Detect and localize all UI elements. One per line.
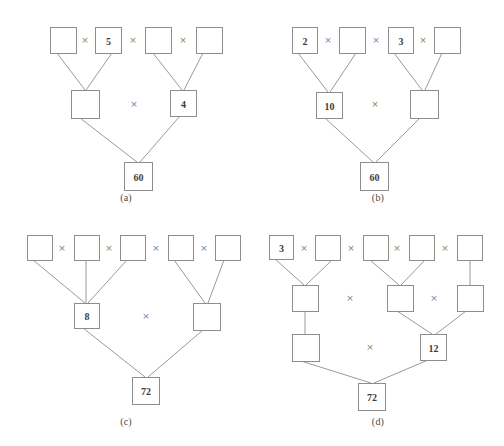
factor-cell-d-mid-1[interactable] [293, 286, 319, 312]
connector-d-edge-l2-root [374, 360, 428, 383]
factor-cell-border-d-low-1[interactable] [293, 335, 320, 362]
connector-b-edge-t1-m1 [298, 53, 328, 92]
multiply-operator-a-op-top-1: × [81, 35, 89, 45]
factor-cell-d-top-1[interactable]: 3 [270, 236, 294, 260]
factor-cell-border-a-top-3[interactable] [146, 28, 172, 54]
multiply-operator-d-op-mid-1: × [346, 293, 354, 303]
factor-cell-d-mid-3[interactable] [458, 286, 484, 312]
connector-b-edge-m2-root [376, 118, 420, 162]
factor-cell-border-d-mid-1[interactable] [293, 286, 319, 312]
factor-cell-d-mid-2[interactable] [388, 286, 414, 312]
multiply-operator-b-op-top-3: × [419, 35, 427, 45]
factor-cell-d-low-1[interactable] [293, 335, 320, 362]
factor-cell-value-d-low-2: 12 [429, 343, 439, 354]
factor-cell-value-c-mid-1: 8 [85, 311, 90, 322]
factor-cell-b-mid-2[interactable] [411, 91, 439, 119]
factor-cell-c-root[interactable]: 72 [133, 378, 160, 405]
factor-cell-border-a-top-1[interactable] [51, 28, 77, 54]
factor-cell-d-top-4[interactable] [410, 236, 435, 261]
factor-cell-value-b-mid-1: 10 [325, 101, 335, 112]
factor-cell-b-top-2[interactable] [340, 28, 366, 54]
connector-a-edge-t1-m1 [57, 53, 85, 90]
factor-cell-d-top-5[interactable] [458, 236, 483, 261]
factor-cell-border-a-mid-1[interactable] [72, 91, 100, 119]
factor-cell-border-d-top-3[interactable] [364, 236, 389, 261]
factor-cell-a-top-2[interactable]: 5 [96, 28, 122, 54]
factor-cell-border-c-top-3[interactable] [121, 236, 146, 261]
factor-cell-border-b-top-2[interactable] [340, 28, 366, 54]
factor-tree-graph-a: ××××5460 [0, 0, 252, 223]
factor-cell-c-top-3[interactable] [121, 236, 146, 261]
multiply-operator-b-op-top-1: × [324, 35, 332, 45]
factor-cell-c-mid-1[interactable]: 8 [75, 304, 100, 329]
connector-b-edge-t3-m2 [394, 53, 422, 90]
connector-b-edge-m1-root [325, 118, 373, 162]
connector-a-edge-t3-m2 [153, 53, 182, 90]
factor-cell-border-d-mid-2[interactable] [388, 286, 414, 312]
factor-cell-border-c-top-1[interactable] [28, 236, 53, 261]
panel-caption-b: (b) [252, 192, 504, 203]
multiply-operator-d-op-top-1: × [300, 243, 308, 253]
factor-cell-border-a-top-4[interactable] [197, 28, 223, 54]
connector-d-edge-l1-root [301, 361, 371, 383]
factor-cell-value-b-top-1: 2 [303, 36, 308, 47]
multiply-operator-c-op-top-3: × [152, 243, 160, 253]
factor-cell-value-d-root: 72 [367, 392, 377, 403]
factor-cell-c-top-5[interactable] [216, 236, 241, 261]
factor-cell-c-mid-2[interactable] [194, 304, 221, 331]
factor-tree-panel-a: ××××5460(a) [0, 0, 252, 223]
connector-c-edge-m2-root [148, 330, 203, 377]
factor-cell-border-b-mid-2[interactable] [411, 91, 439, 119]
connector-c-edge-t3-m1 [88, 260, 127, 303]
factor-cell-a-root[interactable]: 60 [125, 163, 153, 191]
factor-cell-c-top-1[interactable] [28, 236, 53, 261]
factor-cell-border-b-top-4[interactable] [435, 28, 461, 54]
multiply-operator-c-op-top-2: × [105, 243, 113, 253]
factor-cell-value-b-top-3: 3 [399, 36, 404, 47]
factor-cell-d-top-2[interactable] [316, 236, 341, 261]
factor-tree-graph-d: ×××××××31272 [252, 223, 504, 446]
connector-a-edge-m2-root [140, 116, 180, 162]
factor-cell-a-mid-2[interactable]: 4 [171, 91, 197, 117]
factor-tree-panel-c: ×××××872(c) [0, 223, 252, 446]
factor-cell-d-top-3[interactable] [364, 236, 389, 261]
factor-cell-border-d-top-2[interactable] [316, 236, 341, 261]
multiply-operator-d-op-top-2: × [347, 243, 355, 253]
factor-cell-c-top-4[interactable] [169, 236, 194, 261]
factor-cell-b-root[interactable]: 60 [361, 163, 389, 191]
factor-cell-b-top-3[interactable]: 3 [389, 28, 414, 54]
factor-cell-value-a-root: 60 [134, 172, 144, 183]
multiply-operator-c-op-mid-1: × [142, 311, 150, 321]
factor-cell-border-d-mid-3[interactable] [458, 286, 484, 312]
connector-c-edge-t1-m1 [33, 260, 85, 303]
factor-cell-a-top-1[interactable] [51, 28, 77, 54]
factor-cell-border-c-mid-2[interactable] [194, 304, 221, 331]
factor-cell-b-mid-1[interactable]: 10 [317, 93, 343, 119]
factor-cell-border-d-top-5[interactable] [458, 236, 483, 261]
factor-cell-d-low-2[interactable]: 12 [421, 335, 447, 361]
factor-cell-value-a-mid-2: 4 [181, 99, 186, 110]
connector-d-edge-t2-m1 [306, 260, 332, 285]
connector-a-edge-m1-root [80, 118, 137, 162]
connector-a-edge-t2-m1 [86, 53, 112, 90]
factor-cell-border-c-top-4[interactable] [169, 236, 194, 261]
factor-cell-border-c-top-5[interactable] [216, 236, 241, 261]
connector-c-edge-t4-m2 [174, 260, 205, 303]
factor-cell-border-d-top-4[interactable] [410, 236, 435, 261]
factor-cell-b-top-4[interactable] [435, 28, 461, 54]
factor-cell-b-top-1[interactable]: 2 [293, 28, 318, 54]
multiply-operator-d-op-mid-2: × [430, 293, 438, 303]
multiply-operator-a-op-mid-1: × [130, 99, 138, 109]
factor-tree-graph-c: ×××××872 [0, 223, 252, 446]
factor-cell-a-top-4[interactable] [197, 28, 223, 54]
multiply-operator-b-op-top-2: × [372, 35, 380, 45]
factor-cell-d-root[interactable]: 72 [359, 384, 386, 411]
multiply-operator-d-op-top-4: × [441, 243, 449, 253]
multiply-operator-d-op-top-3: × [393, 243, 401, 253]
factor-cell-border-c-top-2[interactable] [75, 236, 100, 261]
factor-cell-a-mid-1[interactable] [72, 91, 100, 119]
factor-cell-a-top-3[interactable] [146, 28, 172, 54]
connector-b-edge-t2-m1 [330, 53, 356, 92]
factor-cell-c-top-2[interactable] [75, 236, 100, 261]
multiply-operator-a-op-top-3: × [179, 35, 187, 45]
